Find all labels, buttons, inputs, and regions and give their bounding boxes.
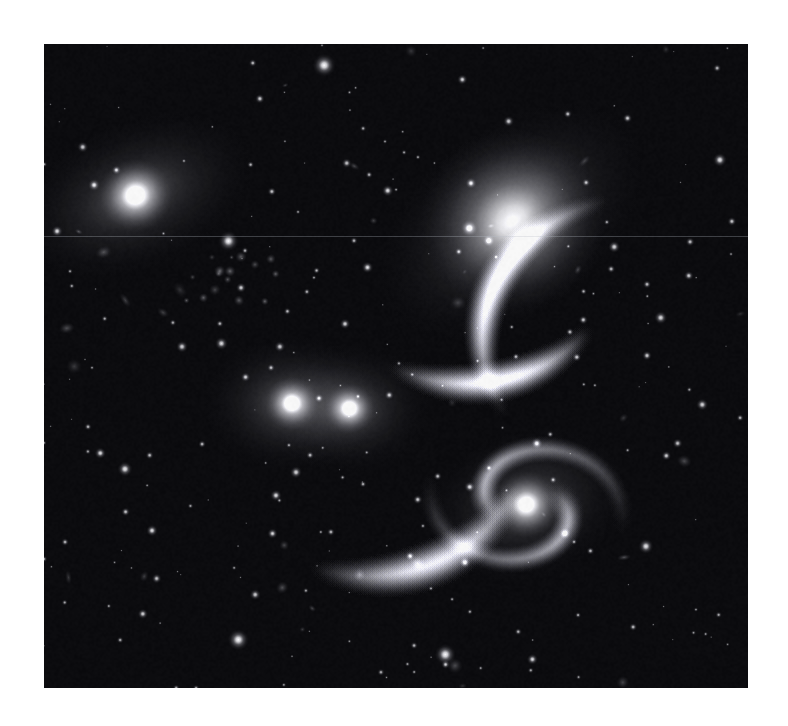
astronomy-figure: [0, 0, 788, 726]
sky-canvas: [44, 44, 748, 688]
page-root: [0, 0, 788, 726]
astrophoto-image: [44, 44, 748, 688]
